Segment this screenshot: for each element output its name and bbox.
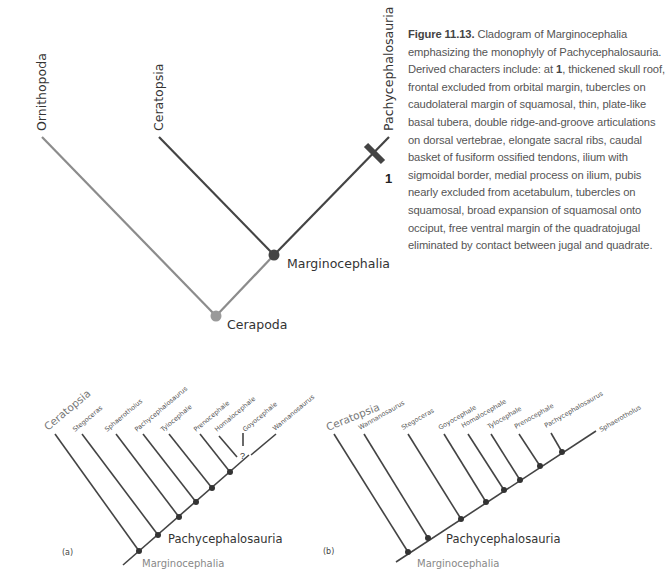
taxon-b-stegoceras: Stegoceras xyxy=(400,406,436,431)
main-cladogram: Ornithopoda Ceratopsia Pachycephalosauri… xyxy=(34,7,396,332)
panel-label-b: (b) xyxy=(323,547,334,556)
taxon-ceratopsia: Ceratopsia xyxy=(151,64,166,131)
taxon-a-wannanosaurus: Wannanosaurus xyxy=(271,393,316,433)
figure-caption: Figure 11.13. Cladogram of Marginocephal… xyxy=(408,26,670,255)
figure-number: Figure 11.13. xyxy=(408,28,474,40)
root-label-a-marginocephalia: Marginocephalia xyxy=(142,558,224,569)
branch-cerapoda-to-marginocephalia xyxy=(216,255,274,316)
node-label-cerapoda: Cerapoda xyxy=(227,317,287,332)
taxon-pachycephalosauria: Pachycephalosauria xyxy=(381,7,396,131)
cladogram-b-labels: Ceratopsia Wannanosaurus Stegoceras Goyo… xyxy=(324,389,643,433)
cladogram-a-labels: Ceratopsia Stegoceras Sphaerotholus Pach… xyxy=(42,384,317,434)
node-marginocephalia xyxy=(269,250,280,261)
root-label-b-marginocephalia: Marginocephalia xyxy=(417,558,499,569)
clade-label-b-pachycephalosauria: Pachycephalosauria xyxy=(446,532,560,546)
taxon-ornithopoda: Ornithopoda xyxy=(34,53,49,131)
character-marker-1: 1 xyxy=(385,171,392,186)
branch-ornithopoda xyxy=(42,137,216,316)
panel-label-a: (a) xyxy=(62,548,73,557)
clade-label-a-pachycephalosauria: Pachycephalosauria xyxy=(168,532,282,546)
node-cerapoda xyxy=(211,311,222,322)
node-label-marginocephalia: Marginocephalia xyxy=(287,256,390,271)
taxon-b-sphaerotholus: Sphaerotholus xyxy=(598,403,643,434)
uncertainty-marker: ? xyxy=(240,451,245,461)
branch-ceratopsia xyxy=(159,137,274,255)
caption-rest: , thickened skull roof, frontal excluded… xyxy=(408,63,665,251)
